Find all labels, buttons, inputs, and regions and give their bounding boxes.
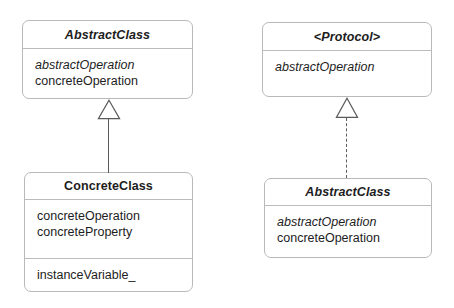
class-member: abstractOperation bbox=[277, 214, 431, 230]
class-title-abstract-class-left: AbstractClass bbox=[23, 21, 192, 49]
class-member: abstractOperation bbox=[35, 57, 192, 73]
class-member: instanceVariable_ bbox=[37, 267, 192, 283]
class-members-abstract-class-left: abstractOperation concreteOperation bbox=[23, 49, 192, 99]
diagram-canvas: AbstractClass abstractOperation concrete… bbox=[0, 0, 454, 308]
class-box-protocol[interactable]: <Protocol> abstractOperation bbox=[262, 22, 432, 97]
class-member: abstractOperation bbox=[275, 59, 431, 75]
inheritance-line bbox=[108, 118, 109, 173]
class-member: concreteOperation bbox=[277, 230, 431, 246]
class-title-abstract-class-right: AbstractClass bbox=[265, 179, 431, 206]
class-title-protocol: <Protocol> bbox=[263, 23, 431, 51]
class-box-abstract-class-left[interactable]: AbstractClass abstractOperation concrete… bbox=[22, 20, 193, 99]
class-member: concreteOperation bbox=[35, 73, 192, 89]
class-title-concrete-class: ConcreteClass bbox=[25, 173, 192, 200]
class-box-abstract-class-right[interactable]: AbstractClass abstractOperation concrete… bbox=[264, 178, 432, 258]
class-box-concrete-class[interactable]: ConcreteClass concreteOperation concrete… bbox=[24, 172, 193, 292]
realization-line bbox=[346, 118, 347, 178]
class-member: concreteProperty bbox=[37, 224, 192, 240]
hollow-triangle-icon bbox=[335, 97, 359, 119]
class-members-abstract-class-right: abstractOperation concreteOperation bbox=[265, 206, 431, 258]
class-member: concreteOperation bbox=[37, 208, 192, 224]
class-members-concrete-class-variables: instanceVariable_ bbox=[25, 259, 192, 292]
class-members-concrete-class-operations: concreteOperation concreteProperty bbox=[25, 200, 192, 259]
class-members-protocol: abstractOperation bbox=[263, 51, 431, 97]
hollow-triangle-icon bbox=[97, 99, 121, 120]
